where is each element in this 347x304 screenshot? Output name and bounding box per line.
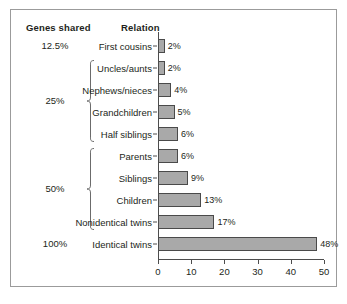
group-label-genes-shared: 100%	[29, 238, 81, 249]
bar-row: Nephews/nieces4%	[158, 79, 324, 101]
group-label-genes-shared: 25%	[29, 95, 81, 106]
bar	[158, 237, 317, 251]
bar-row: Parents6%	[158, 145, 324, 167]
bar-row-tick	[153, 244, 157, 245]
chart-figure: Genes shared Relation 12.5%25%50%100% Fi…	[10, 9, 337, 287]
bar	[158, 193, 201, 207]
x-axis-line	[158, 259, 324, 260]
bar-row: Nonidentical twins17%	[158, 211, 324, 233]
bar-value-label: 6%	[181, 129, 194, 139]
bar-row: Children13%	[158, 189, 324, 211]
bar-value-label: 48%	[320, 239, 338, 249]
bar	[158, 127, 178, 141]
x-axis-tick-label: 20	[219, 266, 230, 277]
bar-value-label: 17%	[217, 217, 235, 227]
bar-value-label: 5%	[178, 107, 191, 117]
bar-row-label: Uncles/aunts	[97, 63, 152, 74]
bar-row-tick	[153, 156, 157, 157]
bar	[158, 149, 178, 163]
bar-row: Half siblings6%	[158, 123, 324, 145]
x-axis-tick-label: 0	[155, 266, 160, 277]
bar-row-tick	[153, 134, 157, 135]
bar-row-label: Siblings	[119, 173, 152, 184]
bar-row-tick	[153, 68, 157, 69]
x-axis-tick	[191, 260, 192, 264]
x-axis-tick	[291, 260, 292, 264]
bar-row-tick	[153, 46, 157, 47]
bar-value-label: 2%	[168, 63, 181, 73]
x-axis-tick	[324, 260, 325, 264]
column-header-genes-shared: Genes shared	[26, 22, 91, 33]
bar-row-label: Identical twins	[92, 239, 152, 250]
x-axis-tick	[258, 260, 259, 264]
group-label-genes-shared: 50%	[29, 183, 81, 194]
x-axis-tick-label: 40	[286, 266, 297, 277]
bar-value-label: 13%	[204, 195, 222, 205]
bar-row-label: Nonidentical twins	[75, 217, 152, 228]
bar-row-tick	[153, 222, 157, 223]
group-label-genes-shared: 12.5%	[29, 40, 81, 51]
x-axis-tick-label: 10	[186, 266, 197, 277]
bar-row-tick	[153, 200, 157, 201]
column-header-relation: Relation	[121, 22, 160, 33]
bar-plot-area: First cousins2%Uncles/aunts2%Nephews/nie…	[158, 32, 324, 260]
bar-row-label: Parents	[119, 151, 152, 162]
bar	[158, 171, 188, 185]
x-axis-tick	[158, 260, 159, 264]
bar-value-label: 4%	[174, 85, 187, 95]
bar-value-label: 2%	[168, 41, 181, 51]
bar-row-label: Grandchildren	[92, 107, 152, 118]
bar-row-label: First cousins	[99, 41, 152, 52]
bar-row-label: Children	[117, 195, 152, 206]
bar-row: Uncles/aunts2%	[158, 57, 324, 79]
bar-row-tick	[153, 90, 157, 91]
bar-row-label: Nephews/nieces	[82, 85, 152, 96]
bar-row-tick	[153, 112, 157, 113]
x-axis-tick-label: 50	[319, 266, 330, 277]
bar-row: Siblings9%	[158, 167, 324, 189]
bar-row-tick	[153, 178, 157, 179]
bar-value-label: 6%	[181, 151, 194, 161]
bar-row: First cousins2%	[158, 35, 324, 57]
x-axis-tick-label: 30	[252, 266, 263, 277]
bar-row-label: Half siblings	[101, 129, 152, 140]
bar	[158, 215, 214, 229]
curly-brace	[86, 60, 95, 142]
bar-row: Identical twins48%	[158, 233, 324, 255]
bar-value-label: 9%	[191, 173, 204, 183]
y-axis-line	[158, 32, 159, 260]
bar-row: Grandchildren5%	[158, 101, 324, 123]
bar	[158, 105, 175, 119]
bar	[158, 83, 171, 97]
x-axis-tick	[224, 260, 225, 264]
